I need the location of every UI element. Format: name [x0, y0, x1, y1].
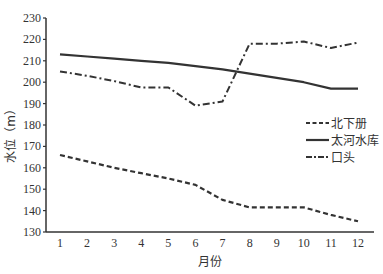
x-tick-label: 8: [247, 236, 253, 250]
series-lines: [60, 42, 358, 222]
y-tick-label: 220: [23, 32, 41, 46]
y-tick-label: 170: [23, 139, 41, 153]
legend: 北下册太河水库口头: [306, 117, 379, 165]
x-tick-label: 12: [352, 236, 364, 250]
y-tick-label: 180: [23, 118, 41, 132]
x-tick-label: 5: [165, 236, 171, 250]
y-tick-label: 140: [23, 204, 41, 218]
axes: 130140150160170180190200210220230 123456…: [23, 11, 374, 250]
line-chart: 130140150160170180190200210220230 123456…: [0, 0, 383, 274]
x-tick-label: 9: [274, 236, 280, 250]
series-line-1: [60, 155, 358, 221]
x-tick-label: 10: [298, 236, 310, 250]
y-axis-title: 水位（m）: [3, 103, 18, 163]
x-tick-label: 1: [57, 236, 63, 250]
y-tick-label: 130: [23, 225, 41, 239]
x-ticks: 123456789101112: [57, 236, 364, 250]
y-tick-label: 230: [23, 11, 41, 25]
y-tick-label: 200: [23, 75, 41, 89]
y-tick-label: 160: [23, 161, 41, 175]
x-tick-label: 6: [192, 236, 198, 250]
x-tick-label: 7: [220, 236, 226, 250]
series-line-2: [60, 54, 358, 88]
legend-label: 太河水库: [331, 133, 379, 148]
y-ticks: 130140150160170180190200210220230: [23, 11, 46, 239]
legend-label: 口头: [331, 151, 355, 165]
y-tick-label: 150: [23, 182, 41, 196]
x-tick-label: 3: [111, 236, 117, 250]
x-tick-label: 2: [84, 236, 90, 250]
y-tick-label: 190: [23, 97, 41, 111]
x-tick-label: 11: [325, 236, 337, 250]
x-axis-title: 月份: [198, 255, 222, 269]
x-tick-label: 4: [138, 236, 144, 250]
series-line-3: [60, 42, 358, 106]
legend-label: 北下册: [331, 117, 367, 131]
y-tick-label: 210: [23, 54, 41, 68]
